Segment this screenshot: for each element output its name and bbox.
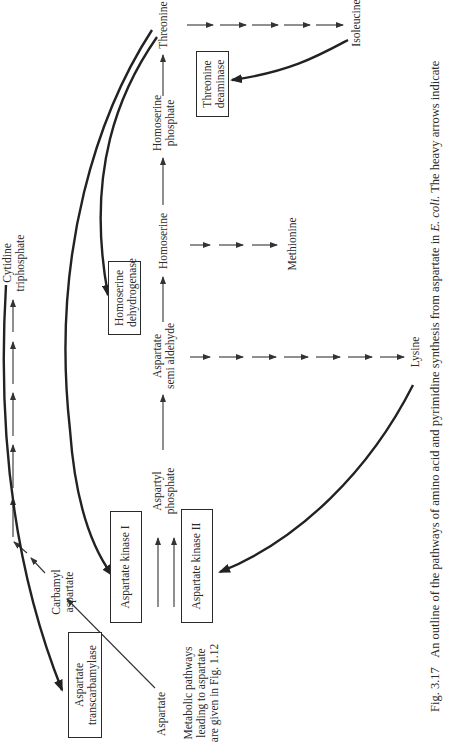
label-carbamyl-aspartate: Carbamyl aspartate bbox=[50, 562, 76, 622]
label-methionine: Methionine bbox=[286, 216, 299, 272]
label-homoserine-phosphate: Homoserine phosphate bbox=[151, 94, 177, 152]
label-aspartyl-phosphate: Aspartyl phosphate bbox=[151, 462, 177, 520]
feedback-threonine-to-homoserine-dehydrogenase bbox=[101, 37, 157, 295]
label-isoleucine: Isoleucine bbox=[350, 0, 363, 48]
caption-text: An outline of the pathways of amino acid… bbox=[428, 232, 442, 658]
enzyme-aspartate-kinase-ii: Aspartate kinase II bbox=[181, 509, 213, 623]
note-metabolic-pathways: Metabolic pathways leading to aspartate … bbox=[182, 642, 221, 744]
label-lysine: Lysine bbox=[409, 332, 422, 372]
label-cytidine-triphosphate: Cytidine triphosphate bbox=[1, 232, 27, 294]
caption-organism: E. coli bbox=[428, 199, 442, 232]
enzyme-homoserine-dehydrogenase: Homoserine dehydrogenase bbox=[108, 261, 141, 335]
enzyme-aspartate-transcarbamylase: Aspartate transcarbamylase bbox=[68, 632, 102, 738]
label-homoserine: Homoserine bbox=[157, 210, 170, 272]
label-threonine: Threonine bbox=[157, 0, 170, 52]
pathway-diagram: Aspartate transcarbamylase Aspartate kin… bbox=[0, 0, 452, 744]
label-aspartate-semialdehyde: Aspartate semi aldehyde bbox=[151, 323, 177, 389]
enzyme-threonine-deaminase: Threonine deaminase bbox=[196, 51, 229, 117]
label-aspartate: Aspartate bbox=[155, 684, 168, 744]
caption-number: Fig. 3.17 bbox=[428, 667, 442, 712]
arrows-kinases-to-aspartyl-phosphate bbox=[158, 538, 174, 607]
figure-caption: Fig. 3.17 An outline of the pathways of … bbox=[428, 61, 443, 712]
enzyme-aspartate-kinase-i: Aspartate kinase I bbox=[110, 511, 142, 623]
feedback-isoleucine-to-threonine-deaminase bbox=[232, 40, 348, 80]
feedback-lysine-to-kinase-ii bbox=[220, 385, 413, 572]
caption-text-end: . The heavy arrows indicate bbox=[428, 61, 442, 199]
